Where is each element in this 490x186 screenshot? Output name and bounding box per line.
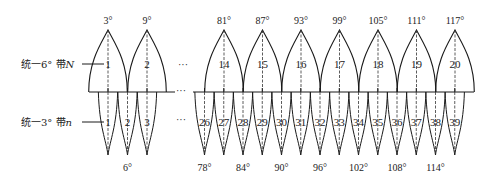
three-degree-zone-number: 1 bbox=[105, 116, 111, 128]
three-degree-zone-number: 34 bbox=[353, 116, 365, 128]
six-degree-zone-label: 统一6° 带N bbox=[21, 58, 76, 70]
three-degree-zone-number: 27 bbox=[218, 116, 230, 128]
bottom-meridian-label: 96° bbox=[313, 162, 327, 173]
central-meridian-label: 117° bbox=[446, 15, 465, 26]
three-degree-zone-number: 31 bbox=[295, 116, 306, 128]
three-degree-zone-number: 3 bbox=[144, 116, 150, 128]
legend-leaders bbox=[82, 64, 104, 122]
six-degree-zone-number: 14 bbox=[219, 58, 231, 70]
three-degree-zone-number: 39 bbox=[449, 116, 461, 128]
central-meridian-label: 105° bbox=[369, 15, 388, 26]
six-degree-zone-number: 2 bbox=[144, 58, 150, 70]
three-degree-zone-label: 统一3° 带n bbox=[21, 116, 72, 128]
six-degree-zone-number: 20 bbox=[450, 58, 462, 70]
three-degree-zone-number: 28 bbox=[238, 116, 250, 128]
three-degree-zone-number: 38 bbox=[430, 116, 442, 128]
bottom-meridian-labels: 6°78°84°90°96°102°108°114° bbox=[123, 162, 445, 173]
ellipsis-upper: ··· bbox=[178, 59, 188, 70]
three-degree-zone-number: 37 bbox=[411, 116, 423, 128]
central-meridian-label: 93° bbox=[294, 15, 308, 26]
bottom-meridian-label: 114° bbox=[426, 162, 445, 173]
three-degree-zone-number: 26 bbox=[199, 116, 211, 128]
central-meridian-label: 111° bbox=[407, 15, 425, 26]
projection-zone-diagram: 统一6° 带N 统一3° 带n ··· ··· ··· 3°19°281°148… bbox=[0, 0, 490, 186]
bottom-meridian-label: 102° bbox=[349, 162, 368, 173]
six-degree-zone-number: 19 bbox=[411, 58, 423, 70]
ellipsis-middle: ··· bbox=[176, 85, 186, 96]
tick-marks bbox=[108, 88, 455, 92]
three-degree-zone-number: 35 bbox=[372, 116, 384, 128]
central-meridian-label: 81° bbox=[217, 15, 231, 26]
six-degree-zone-number: 17 bbox=[334, 58, 346, 70]
central-meridian-label: 87° bbox=[256, 15, 270, 26]
central-meridian-label: 3° bbox=[104, 15, 113, 26]
six-degree-zone-number: 15 bbox=[257, 58, 269, 70]
six-degree-zone-number: 1 bbox=[105, 58, 111, 70]
three-degree-zone-number: 36 bbox=[392, 116, 404, 128]
ellipsis-lower: ··· bbox=[176, 114, 186, 125]
central-meridian-label: 99° bbox=[333, 15, 347, 26]
three-degree-zone-number: 29 bbox=[257, 116, 269, 128]
three-degree-zone-number: 32 bbox=[315, 116, 326, 128]
central-meridian-label: 9° bbox=[143, 15, 152, 26]
six-degree-zone-number: 18 bbox=[373, 58, 385, 70]
six-degree-zone-number: 16 bbox=[296, 58, 308, 70]
three-degree-labels: 1232627282930313233343536373839 bbox=[105, 116, 461, 128]
bottom-meridian-label: 90° bbox=[275, 162, 289, 173]
bottom-meridian-label: 78° bbox=[198, 162, 212, 173]
bottom-meridian-label: 84° bbox=[236, 162, 250, 173]
three-degree-zone-number: 33 bbox=[334, 116, 346, 128]
three-degree-zone-number: 2 bbox=[125, 116, 131, 128]
bottom-meridian-label: 6° bbox=[123, 162, 132, 173]
bottom-meridian-label: 108° bbox=[388, 162, 407, 173]
three-degree-zone-number: 30 bbox=[276, 116, 288, 128]
